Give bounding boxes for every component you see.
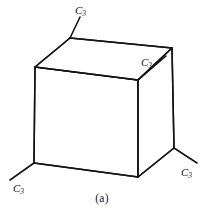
c3-label-top-left: C3: [75, 4, 86, 18]
c3-axis-line-bottom-right: [174, 148, 197, 163]
c3-axis-line-bottom-left: [10, 163, 34, 180]
cube-edges: [34, 38, 174, 177]
c3-axis-line-top-left: [70, 17, 80, 38]
cube-diagram: C3 C3 C3 C3: [0, 0, 204, 218]
figure-caption: (a): [0, 192, 204, 204]
c3-label-bottom-right: C3: [181, 166, 192, 180]
edge-front-left: [34, 67, 35, 163]
figure-container: C3 C3 C3 C3 (a): [0, 0, 204, 218]
cube-front-face: [34, 67, 138, 177]
